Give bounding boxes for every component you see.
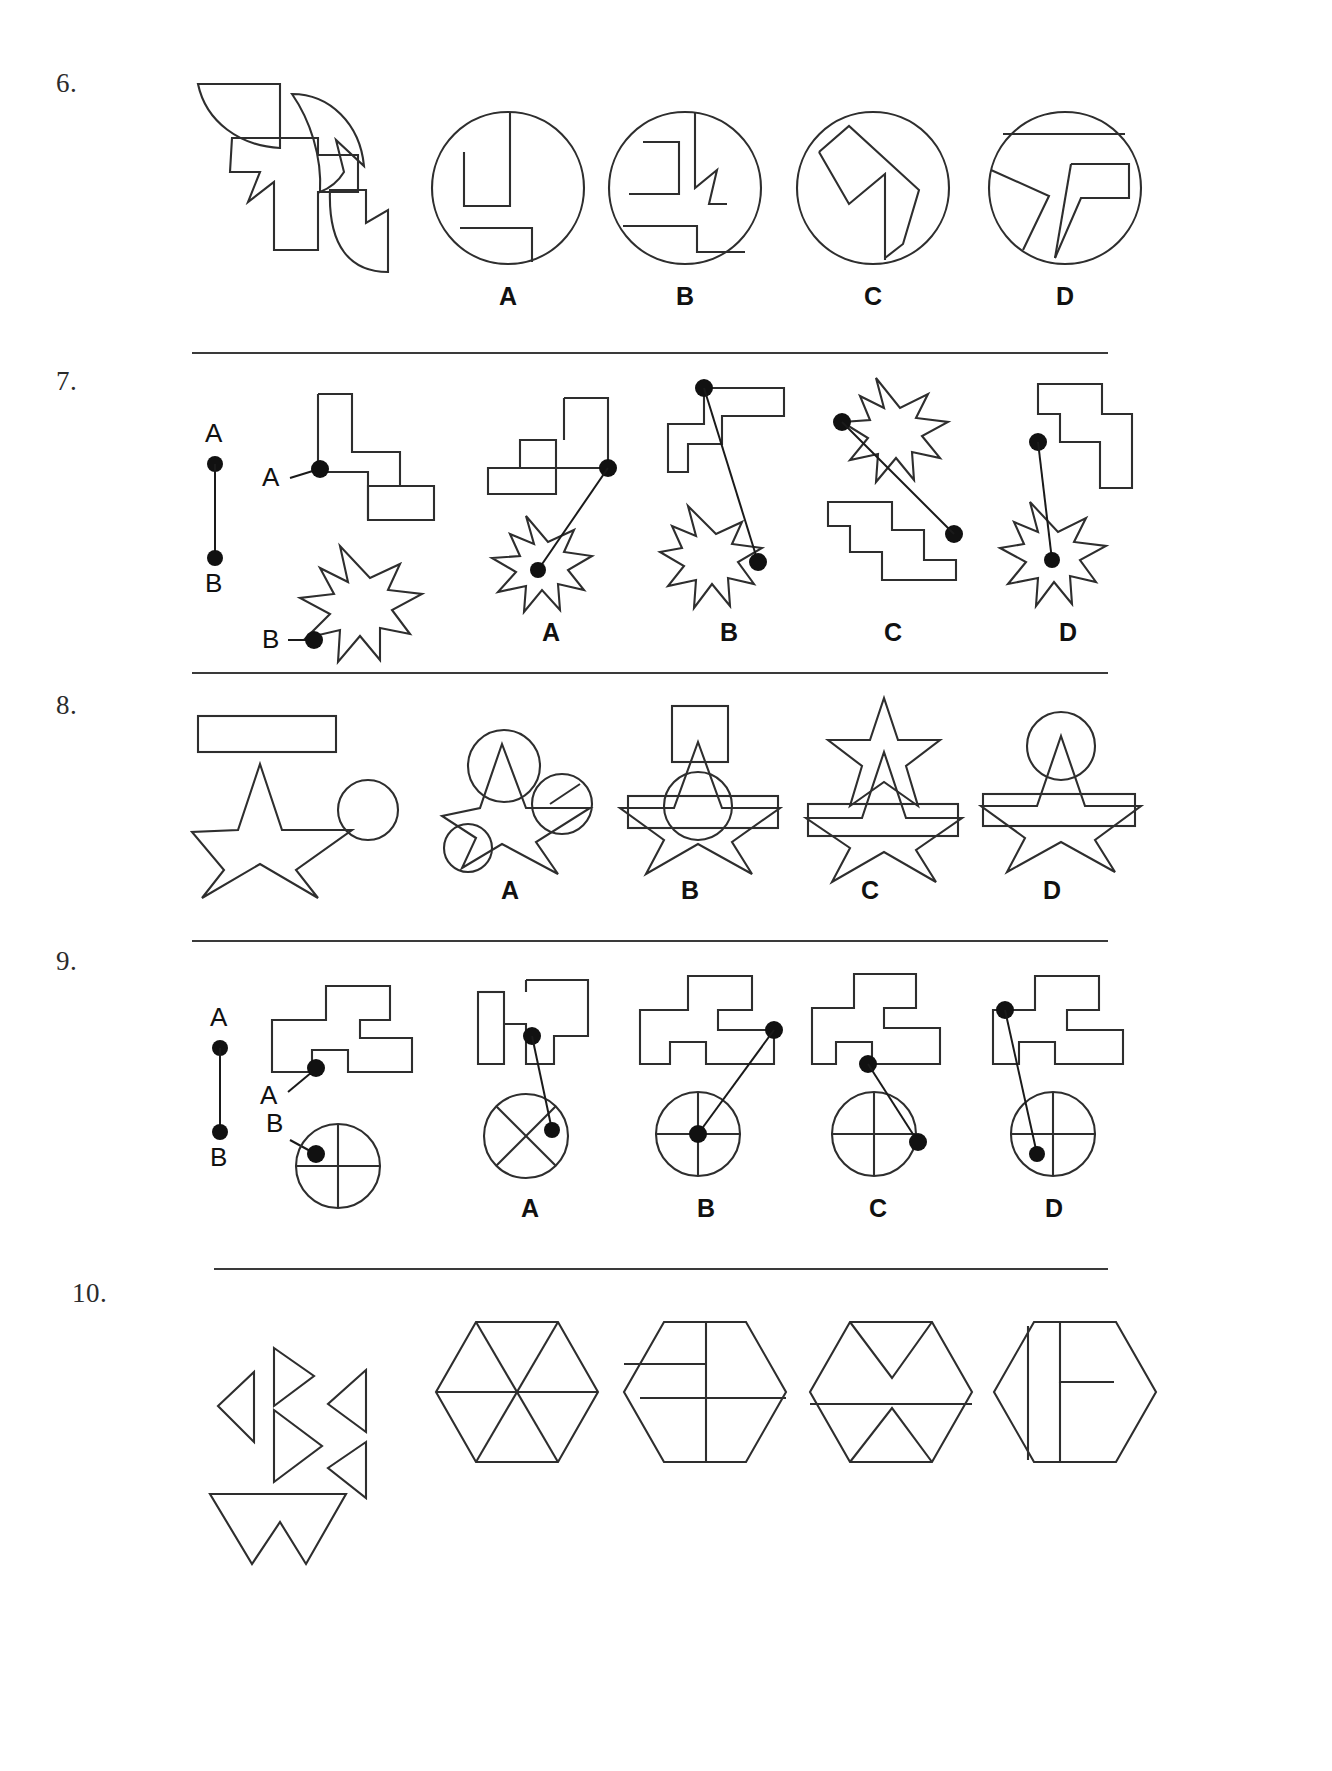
question-6: 6. A xyxy=(0,0,1332,350)
q10-prompt-figure xyxy=(196,1314,396,1569)
divider-1 xyxy=(192,352,1108,354)
q6-prompt-figure xyxy=(170,60,400,290)
q10-piece-triangle-right2 xyxy=(328,1442,366,1498)
q9-option-a-figure[interactable] xyxy=(468,974,618,1189)
question-number: 9. xyxy=(56,946,77,977)
q7-option-a-figure[interactable] xyxy=(480,386,630,616)
q9-prompt-dot-b xyxy=(307,1145,325,1163)
q8-option-c-figure[interactable] xyxy=(800,696,965,886)
q7-option-label-d: D xyxy=(1048,618,1088,647)
q8-prompt-figure xyxy=(190,712,405,902)
q9-option-label-c: C xyxy=(858,1194,898,1223)
q7-key-label-a: A xyxy=(205,418,223,448)
q7-option-d-dot-star xyxy=(1044,552,1060,568)
q7-option-label-b: B xyxy=(709,618,749,647)
q6-piece-crescent xyxy=(292,94,364,192)
divider-4 xyxy=(214,1268,1108,1270)
q6-option-b-figure[interactable] xyxy=(605,108,765,268)
q9-option-d-dot-circle xyxy=(1029,1146,1045,1162)
q9-option-a-dot-circle xyxy=(544,1122,560,1138)
q9-key-dot-b xyxy=(212,1124,228,1140)
q7-key-label-b: B xyxy=(205,568,222,598)
q6-option-d-figure[interactable] xyxy=(985,108,1145,268)
q8-option-b-figure[interactable] xyxy=(620,702,785,882)
q6-option-label-d: D xyxy=(1045,282,1085,311)
q8-option-label-c: C xyxy=(850,876,890,905)
q10-piece-triangle-top xyxy=(274,1348,314,1406)
q7-option-label-c: C xyxy=(873,618,913,647)
q10-option-c-figure[interactable] xyxy=(806,1316,976,1476)
q9-option-label-b: B xyxy=(686,1194,726,1223)
q9-option-d-figure[interactable] xyxy=(985,968,1145,1188)
q10-piece-triangle-mid xyxy=(274,1410,322,1482)
q9-prompt-label-a: A xyxy=(260,1080,278,1110)
q6-option-c-figure[interactable] xyxy=(793,108,953,268)
q9-key-label-a: A xyxy=(210,1002,228,1032)
question-8: 8. A xyxy=(0,676,1332,958)
q7-option-a-dot-top xyxy=(599,459,617,477)
q10-piece-triangle-left xyxy=(218,1372,254,1442)
q10-option-d-figure[interactable] xyxy=(990,1316,1160,1476)
q6-option-label-b: B xyxy=(665,282,705,311)
divider-2 xyxy=(192,672,1108,674)
q7-option-c-figure[interactable] xyxy=(820,374,985,604)
q7-option-b-figure[interactable] xyxy=(660,376,810,616)
q7-option-label-a: A xyxy=(531,618,571,647)
q7-prompt-dot-b xyxy=(305,631,323,649)
question-9: 9. A B A B xyxy=(0,944,1332,1244)
divider-3 xyxy=(192,940,1108,942)
q9-prompt-dot-a xyxy=(307,1059,325,1077)
q9-option-b-figure[interactable] xyxy=(640,968,795,1188)
question-number: 8. xyxy=(56,690,77,721)
q10-option-a-figure[interactable] xyxy=(432,1316,602,1476)
q7-prompt-dot-a xyxy=(311,460,329,478)
q8-option-label-a: A xyxy=(490,876,530,905)
question-7: 7. A B A B xyxy=(0,356,1332,668)
q9-key-label-b: B xyxy=(210,1142,227,1172)
q9-option-c-figure[interactable] xyxy=(812,968,967,1188)
q7-key-dot-b xyxy=(207,550,223,566)
q7-prompt-figure: A B xyxy=(252,376,452,666)
q10-piece-w xyxy=(210,1494,346,1564)
q7-option-d-figure[interactable] xyxy=(1000,376,1150,611)
q9-option-label-d: D xyxy=(1034,1194,1074,1223)
test-page: 6. A xyxy=(0,0,1332,1771)
q7-prompt-label-a: A xyxy=(262,462,280,492)
question-number: 7. xyxy=(56,366,77,397)
q6-piece-cross xyxy=(230,138,358,250)
question-10: 10. A xyxy=(0,1272,1332,1632)
q7-option-b-dot-star xyxy=(749,553,767,571)
q8-piece-circle xyxy=(338,780,398,840)
q6-piece-notched-disc xyxy=(330,190,388,272)
q8-option-label-d: D xyxy=(1032,876,1072,905)
question-number: 10. xyxy=(72,1278,107,1309)
q9-option-c-dot-circle xyxy=(909,1133,927,1151)
q7-option-a-dot-star xyxy=(530,562,546,578)
q8-option-label-b: B xyxy=(670,876,710,905)
q8-piece-rectangle xyxy=(198,716,336,752)
q7-prompt-label-b: B xyxy=(262,624,279,654)
q10-option-b-figure[interactable] xyxy=(620,1316,790,1476)
q6-option-label-c: C xyxy=(853,282,893,311)
q8-piece-star xyxy=(192,764,352,898)
q9-option-label-a: A xyxy=(510,1194,550,1223)
q8-option-a-figure[interactable] xyxy=(440,712,595,892)
q9-option-b-dot-circle xyxy=(689,1125,707,1143)
q6-option-a-figure[interactable] xyxy=(428,108,588,268)
q9-prompt-label-b: B xyxy=(266,1108,283,1138)
question-number: 6. xyxy=(56,68,77,99)
q6-option-label-a: A xyxy=(488,282,528,311)
q10-piece-triangle-right1 xyxy=(328,1370,366,1432)
q9-prompt-figure: A B xyxy=(252,980,432,1210)
q8-option-d-figure[interactable] xyxy=(975,702,1145,882)
